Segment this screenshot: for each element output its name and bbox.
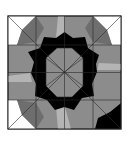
edge-right-light [97, 63, 121, 70]
construction-lines [8, 16, 121, 129]
quilt-pattern [0, 0, 126, 141]
